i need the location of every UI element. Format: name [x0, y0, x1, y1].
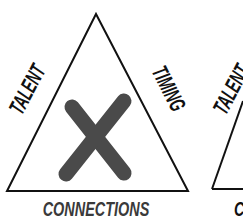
connections-label: CONNECTIONS	[43, 198, 150, 220]
connections-label-right-partial: C	[234, 198, 243, 220]
diagram-canvas: TALENT TIMING CONNECTIONS TALENT C	[0, 0, 243, 220]
talent-label-right: TALENT	[208, 59, 243, 118]
timing-label: TIMING	[147, 62, 191, 116]
talent-label: TALENT	[4, 59, 52, 118]
